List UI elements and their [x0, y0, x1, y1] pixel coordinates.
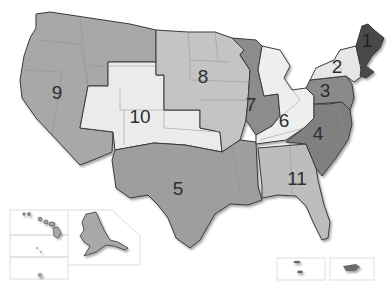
label-region-10: 10	[129, 106, 150, 127]
puerto-rico-inset[interactable]	[343, 264, 360, 271]
label-region-4: 4	[313, 123, 324, 144]
label-region-5: 5	[173, 178, 184, 199]
label-region-3: 3	[320, 80, 331, 101]
label-region-1: 1	[362, 30, 373, 51]
us-regions-map: 1 2 3 4 5 6 7 8 9 10 11	[0, 0, 392, 297]
label-region-2: 2	[332, 56, 343, 77]
label-region-9: 9	[52, 82, 63, 103]
label-region-8: 8	[198, 66, 209, 87]
hawaii-inset[interactable]	[23, 213, 61, 239]
label-region-7: 7	[246, 94, 257, 115]
label-region-6: 6	[279, 110, 290, 131]
virgin-islands-inset[interactable]	[294, 261, 304, 274]
guam-inset[interactable]	[36, 247, 42, 277]
region-5[interactable]	[112, 140, 262, 248]
label-region-11: 11	[287, 168, 307, 189]
